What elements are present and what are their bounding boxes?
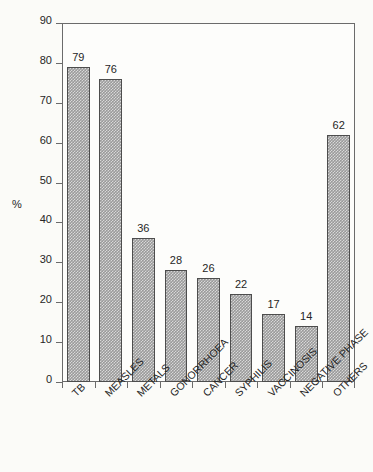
x-axis-tick-label: GONORRHOEA [168, 337, 230, 399]
x-axis-labels: TBMEASLESMETALSGONORRHOEACANCERSYPHILISV… [0, 0, 373, 472]
x-axis-tick-label: TB [70, 382, 87, 399]
chart-page: 0102030405060708090 % 797636282622171462… [0, 0, 373, 472]
